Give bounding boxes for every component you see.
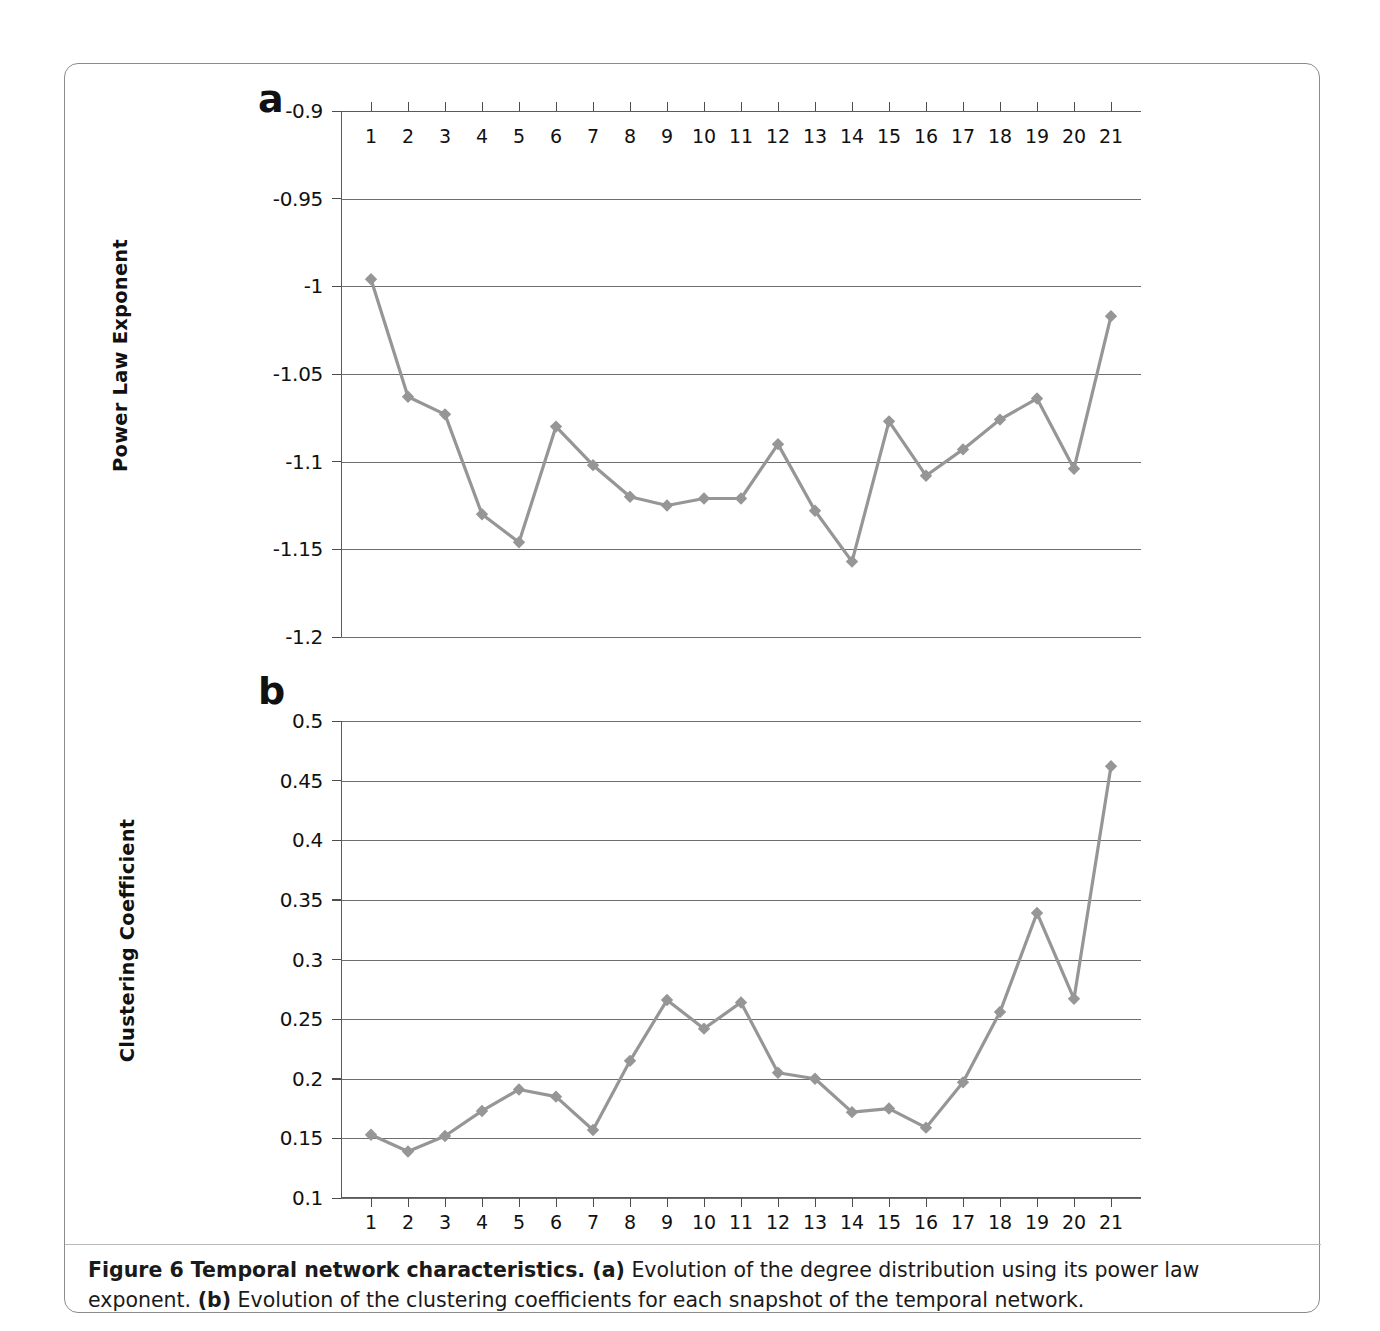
x-axis-tick-mark xyxy=(593,102,594,111)
x-axis-tick-mark xyxy=(1074,1198,1075,1207)
x-axis-tick-mark xyxy=(778,1198,779,1207)
x-axis-tick-mark xyxy=(1037,1198,1038,1207)
panel-a: a Power Law Exponent -0.9-0.95-1-1.05-1.… xyxy=(65,64,1321,664)
x-axis-tick-mark xyxy=(482,1198,483,1207)
caption-part-a-marker: (a) xyxy=(592,1258,625,1282)
y-axis-tick-mark xyxy=(332,198,341,199)
x-axis-tick-label: 11 xyxy=(729,1211,753,1233)
x-axis-tick-mark xyxy=(630,102,631,111)
x-axis-tick-label: 6 xyxy=(550,1211,562,1233)
x-axis-tick-mark xyxy=(889,1198,890,1207)
data-series-layer xyxy=(341,721,1141,1198)
y-axis-tick-label: -1.05 xyxy=(203,362,323,386)
x-axis-tick-mark xyxy=(963,1198,964,1207)
x-axis-tick-label: 3 xyxy=(439,1211,451,1233)
y-axis-tick-mark xyxy=(332,721,341,722)
x-axis-tick-mark xyxy=(667,102,668,111)
y-axis-tick-mark xyxy=(332,111,341,112)
x-axis-tick-mark xyxy=(445,1198,446,1207)
x-axis-tick-label: 19 xyxy=(1025,1211,1049,1233)
y-axis-tick-mark xyxy=(332,549,341,550)
x-axis-tick-mark xyxy=(778,102,779,111)
y-axis-tick-label: -1.1 xyxy=(203,450,323,474)
caption-part-b-text: Evolution of the clustering coefficients… xyxy=(238,1288,1085,1312)
y-axis-tick-mark xyxy=(332,959,341,960)
y-axis-tick-label: 0.15 xyxy=(203,1126,323,1150)
y-axis-tick-label: -1.15 xyxy=(203,537,323,561)
data-point-marker xyxy=(365,273,377,285)
caption-title: Temporal network characteristics. xyxy=(191,1258,585,1282)
panel-b-letter: b xyxy=(258,672,285,710)
x-axis-tick-label: 10 xyxy=(692,1211,716,1233)
figure-caption: Figure 6 Temporal network characteristic… xyxy=(88,1255,1303,1316)
data-point-marker xyxy=(698,492,710,504)
panel-a-plot-area: -0.9-0.95-1-1.05-1.1-1.15-1.212345678910… xyxy=(341,111,1141,637)
data-point-marker xyxy=(1105,760,1117,772)
x-axis-tick-label: 8 xyxy=(624,1211,636,1233)
y-axis-tick-label: 0.1 xyxy=(203,1186,323,1210)
y-axis-tick-label: 0.3 xyxy=(203,948,323,972)
x-axis-tick-mark xyxy=(926,102,927,111)
x-axis-tick-mark xyxy=(815,102,816,111)
x-axis-tick-mark xyxy=(1000,102,1001,111)
x-axis-tick-mark xyxy=(704,1198,705,1207)
y-axis-tick-label: 0.35 xyxy=(203,888,323,912)
data-point-marker xyxy=(402,391,414,403)
x-axis-tick-label: 14 xyxy=(840,1211,864,1233)
x-axis-tick-mark xyxy=(926,1198,927,1207)
x-axis-tick-mark xyxy=(556,102,557,111)
y-axis-tick-label: 0.25 xyxy=(203,1007,323,1031)
y-axis-tick-mark xyxy=(332,374,341,375)
x-axis-tick-mark xyxy=(445,102,446,111)
x-axis-tick-mark xyxy=(741,102,742,111)
data-point-marker xyxy=(994,1006,1006,1018)
data-point-marker xyxy=(365,1129,377,1141)
panel-b-plot-area: 0.50.450.40.350.30.250.20.150.1123456789… xyxy=(341,721,1141,1198)
gridline xyxy=(341,637,1141,638)
x-axis-tick-mark xyxy=(1037,102,1038,111)
x-axis-tick-mark xyxy=(371,102,372,111)
y-axis-tick-mark xyxy=(332,840,341,841)
x-axis-tick-mark xyxy=(371,1198,372,1207)
data-point-marker xyxy=(402,1145,414,1157)
y-axis-tick-label: 0.4 xyxy=(203,828,323,852)
x-axis-tick-label: 9 xyxy=(661,1211,673,1233)
data-point-marker xyxy=(661,499,673,511)
x-axis-tick-label: 12 xyxy=(766,1211,790,1233)
y-axis-tick-label: -1 xyxy=(203,274,323,298)
caption-part-b-marker: (b) xyxy=(198,1288,231,1312)
y-axis-tick-mark xyxy=(332,461,341,462)
x-axis-tick-mark xyxy=(519,102,520,111)
x-axis-tick-mark xyxy=(1111,1198,1112,1207)
x-axis-tick-mark xyxy=(852,1198,853,1207)
x-axis-tick-label: 20 xyxy=(1062,1211,1086,1233)
x-axis-tick-mark xyxy=(1111,102,1112,111)
x-axis-tick-label: 13 xyxy=(803,1211,827,1233)
x-axis-tick-label: 5 xyxy=(513,1211,525,1233)
x-axis-tick-mark xyxy=(852,102,853,111)
x-axis-tick-mark xyxy=(741,1198,742,1207)
x-axis-tick-mark xyxy=(1074,102,1075,111)
data-point-marker xyxy=(883,1102,895,1114)
x-axis-tick-label: 4 xyxy=(476,1211,488,1233)
y-axis-tick-mark xyxy=(332,780,341,781)
x-axis-tick-mark xyxy=(630,1198,631,1207)
y-axis-tick-label: 0.2 xyxy=(203,1067,323,1091)
y-axis-tick-label: -0.95 xyxy=(203,187,323,211)
data-point-marker xyxy=(1031,907,1043,919)
x-axis-tick-label: 1 xyxy=(365,1211,377,1233)
data-point-marker xyxy=(1031,392,1043,404)
y-axis-tick-mark xyxy=(332,1138,341,1139)
x-axis-tick-label: 7 xyxy=(587,1211,599,1233)
y-axis-tick-label: -0.9 xyxy=(203,99,323,123)
x-axis-tick-label: 2 xyxy=(402,1211,414,1233)
data-point-marker xyxy=(1068,462,1080,474)
x-axis-tick-mark xyxy=(667,1198,668,1207)
y-axis-tick-mark xyxy=(332,286,341,287)
y-axis-tick-mark xyxy=(332,1019,341,1020)
y-axis-tick-mark xyxy=(332,1198,341,1199)
data-point-marker xyxy=(1105,310,1117,322)
y-axis-tick-mark xyxy=(332,1078,341,1079)
data-point-marker xyxy=(772,1067,784,1079)
y-axis-tick-label: 0.5 xyxy=(203,709,323,733)
